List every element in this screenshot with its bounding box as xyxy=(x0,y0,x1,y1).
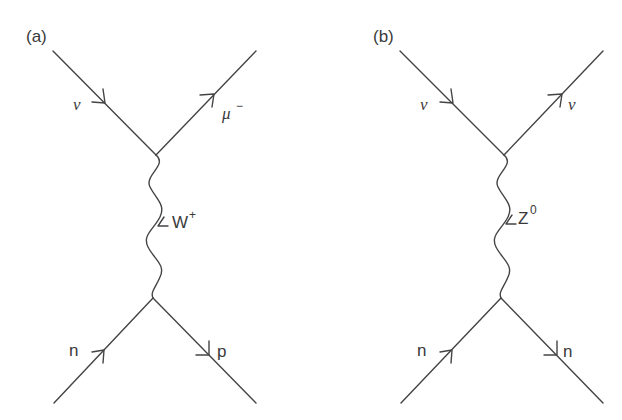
label-outgoing-neutrino-b: ν xyxy=(568,95,576,114)
label-incoming-neutrino-b: ν xyxy=(420,95,428,114)
label-outgoing-neutron-b: n xyxy=(563,342,572,361)
label-proton-a: p xyxy=(217,342,226,361)
diagram-b: (b) ν ν Z 0 n n xyxy=(373,27,603,403)
label-neutron-a: n xyxy=(69,341,78,360)
arrow-z-boson xyxy=(506,215,516,224)
label-muon-charge-a: − xyxy=(236,99,243,113)
outgoing-neutrino-line-b xyxy=(504,51,603,155)
label-z-charge: 0 xyxy=(530,203,537,217)
label-incoming-neutrino-a: ν xyxy=(73,95,81,114)
diagram-a: (a) ν μ − W + n p xyxy=(26,27,256,403)
label-w-boson: W xyxy=(172,213,188,232)
label-z-boson: Z xyxy=(518,209,528,228)
feynman-diagrams: (a) ν μ − W + n p (b) ν ν Z xyxy=(0,0,622,420)
arrow-incoming-neutrino-b xyxy=(440,89,453,103)
panel-label-b: (b) xyxy=(373,27,394,46)
label-incoming-neutron-b: n xyxy=(417,341,426,360)
label-muon-a: μ xyxy=(221,104,231,123)
outgoing-proton-line-a xyxy=(153,298,256,403)
panel-label-a: (a) xyxy=(26,27,47,46)
label-w-charge: + xyxy=(189,208,196,222)
z-boson-propagator xyxy=(494,155,509,298)
outgoing-neutron-line-b xyxy=(501,298,603,403)
